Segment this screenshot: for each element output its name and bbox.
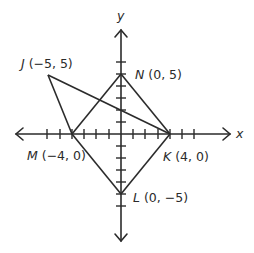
point-label-j: J (−5, 5): [18, 56, 73, 71]
point-l-letter: L: [133, 190, 140, 205]
segment-nk: [121, 74, 170, 134]
segment-mn: [72, 74, 121, 134]
point-label-k: K (4, 0): [163, 149, 209, 164]
segment-jk: [48, 75, 170, 134]
coordinate-diagram: y x J (−5, 5) N (0, 5) M (−4, 0) K (4, 0…: [0, 0, 254, 253]
segment-kl: [121, 134, 170, 194]
x-axis-label: x: [235, 126, 244, 141]
segment-jm: [48, 75, 72, 134]
point-j-coords: (−5, 5): [25, 56, 73, 71]
point-m-coords: (−4, 0): [38, 148, 86, 163]
point-l-coords: (0, −5): [140, 190, 188, 205]
point-n-coords: (0, 5): [144, 67, 182, 82]
point-label-l: L (0, −5): [133, 190, 188, 205]
point-m-letter: M: [27, 148, 38, 163]
segment-lm: [72, 134, 121, 194]
y-axis-label: y: [116, 8, 125, 23]
point-label-m: M (−4, 0): [27, 148, 86, 163]
coordinate-plane: y x J (−5, 5) N (0, 5) M (−4, 0) K (4, 0…: [0, 0, 254, 253]
point-label-n: N (0, 5): [135, 67, 182, 82]
point-k-coords: (4, 0): [171, 149, 209, 164]
